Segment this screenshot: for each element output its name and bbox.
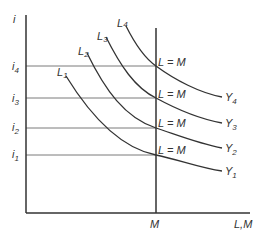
label-i1: i1 bbox=[12, 148, 19, 163]
curve-2 bbox=[87, 53, 222, 148]
label-l2: L2 bbox=[78, 45, 89, 59]
label-i4: i4 bbox=[12, 60, 19, 75]
label-l4: L4 bbox=[117, 17, 128, 29]
intersection-label-2: L = M bbox=[158, 117, 186, 129]
label-l3: L3 bbox=[97, 30, 108, 44]
label-y2: Y2 bbox=[225, 142, 237, 157]
x-axis-tick-m: M bbox=[150, 218, 160, 230]
intersection-label-1: L = M bbox=[158, 144, 186, 156]
label-y3: Y3 bbox=[225, 117, 237, 132]
y-axis-label: i bbox=[13, 13, 16, 25]
diagram-canvas: i M L,M i4 i3 i2 i1 L1 L2 L3 L4 L = M L … bbox=[0, 0, 267, 241]
curve-3 bbox=[106, 37, 222, 123]
label-i2: i2 bbox=[12, 121, 19, 136]
label-i3: i3 bbox=[12, 92, 19, 107]
label-y1: Y1 bbox=[225, 165, 237, 180]
label-y4: Y4 bbox=[225, 91, 237, 106]
x-axis-label: L,M bbox=[234, 218, 253, 230]
intersection-label-3: L = M bbox=[158, 88, 186, 100]
intersection-label-4: L = M bbox=[158, 56, 186, 68]
label-l1: L1 bbox=[57, 66, 68, 80]
